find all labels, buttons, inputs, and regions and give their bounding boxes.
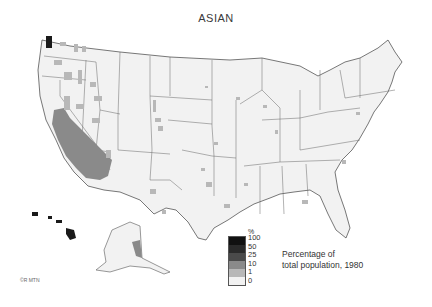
legend-swatch-10: [229, 261, 245, 269]
legend-label: 0: [248, 277, 261, 286]
legend-swatches: [228, 236, 246, 286]
us-map: [0, 0, 432, 307]
legend-swatch-1: [229, 269, 245, 277]
washington-shaded: [46, 36, 52, 48]
legend-labels: 100 50 25 10 1 0: [248, 234, 261, 285]
legend-swatch-0: [229, 277, 245, 285]
legend-swatch-25: [229, 253, 245, 261]
hawaii-islands: [32, 212, 76, 240]
legend-swatch-100: [229, 237, 245, 245]
legend-caption-line1: Percentage of: [282, 249, 363, 260]
copyright-credit: ©R MTN: [20, 277, 40, 283]
legend-swatch-50: [229, 245, 245, 253]
legend-caption-line2: total population, 1980: [282, 260, 363, 271]
alaska-outline: [96, 222, 170, 274]
legend-caption: Percentage of total population, 1980: [282, 249, 363, 271]
